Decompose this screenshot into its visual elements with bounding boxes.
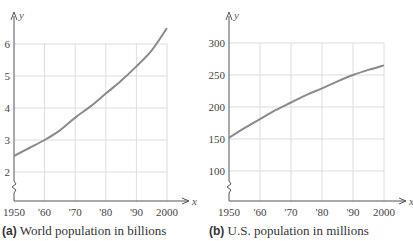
y-tick-label: 300: [209, 37, 226, 49]
caption-a: (a) World population in billions: [2, 223, 166, 239]
caption-b: (b) U.S. population in millions: [209, 223, 369, 239]
y-tick-label: 150: [209, 133, 226, 145]
x-axis-label: x: [408, 195, 413, 207]
x-axis-label: x: [191, 195, 197, 207]
x-tick-label: '80: [99, 206, 112, 218]
population-curve: [14, 28, 167, 156]
y-tick-label: 6: [5, 38, 11, 50]
y-axis: [227, 16, 231, 201]
x-tick-label: 2000: [373, 206, 396, 218]
x-tick-label: '90: [347, 206, 360, 218]
population-curve: [229, 65, 384, 137]
x-tick-label: '70: [285, 206, 298, 218]
y-tick-label: 100: [209, 165, 226, 177]
caption-a-text: World population in billions: [20, 223, 167, 238]
y-tick-label: 5: [5, 70, 11, 82]
x-tick-label: 1950: [218, 206, 241, 218]
y-tick-label: 2: [5, 166, 11, 178]
y-axis-label: y: [18, 9, 24, 21]
x-tick-label: '90: [130, 206, 143, 218]
caption-b-text: U.S. population in millions: [228, 223, 369, 238]
x-tick-label: 1950: [3, 206, 26, 218]
x-tick-label: '80: [316, 206, 329, 218]
y-tick-label: 4: [5, 102, 11, 114]
x-tick-label: '60: [254, 206, 267, 218]
caption-b-tag: (b): [209, 224, 224, 238]
y-tick-label: 3: [5, 134, 11, 146]
y-tick-label: 250: [209, 69, 226, 81]
x-tick-label: '60: [38, 206, 51, 218]
caption-a-tag: (a): [2, 224, 17, 238]
y-tick-label: 200: [209, 101, 226, 113]
y-axis-label: y: [233, 9, 239, 21]
us-population-chart: 1001502002503001950'60'70'80'902000yx: [209, 9, 413, 218]
population-charts: 234561950'60'70'80'902000yx 100150200250…: [0, 0, 413, 241]
world-population-chart: 234561950'60'70'80'902000yx: [3, 9, 197, 218]
x-tick-label: '70: [69, 206, 82, 218]
x-tick-label: 2000: [156, 206, 179, 218]
